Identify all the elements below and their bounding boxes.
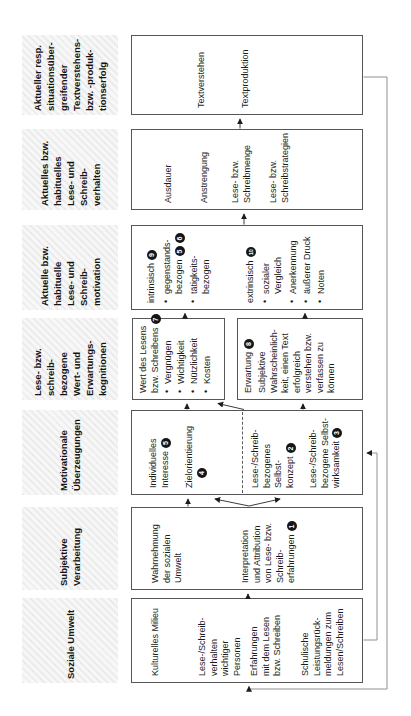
text-line: Zielorientierung — [184, 411, 196, 488]
header-line: habituelle — [51, 225, 64, 306]
list-item: Zielorientierung4 — [184, 411, 207, 488]
label-text: Umwelt — [173, 553, 183, 583]
header-line: bezogene — [57, 318, 70, 396]
text-line: Vergnügen — [163, 319, 175, 384]
label-text: Vergnügen — [163, 340, 173, 384]
list-item: •Nützlichkeit — [189, 319, 201, 393]
label-text: Zielorientierung — [184, 426, 194, 488]
text-line: können — [326, 319, 338, 393]
label-text: verhalten — [209, 639, 219, 676]
label-text: Interesse — [160, 451, 170, 488]
label-text: wirksamkeit — [331, 441, 341, 488]
text-line: und Attribution — [252, 508, 264, 583]
header-line: Aktueller resp. — [31, 35, 44, 111]
label-text: Lese-/Schreib- — [308, 429, 318, 488]
header-line: Erwartungs- — [83, 318, 96, 396]
list-item: •Wichtigkeit — [176, 319, 188, 393]
text-line: Wahrnehmung — [150, 508, 162, 583]
header-line: greifender — [57, 35, 70, 111]
label-text: Lese-/Schreib- — [250, 429, 260, 488]
text-line: Personen — [232, 599, 244, 676]
header-line: Aktuelles bzw. — [38, 129, 51, 206]
number-badge-2: 2 — [286, 443, 296, 453]
bullet-marker: • — [188, 300, 200, 303]
list-item: Erfahrungenmit dem Lesenbzw. Schreiben — [249, 599, 284, 676]
list-item: •äußerer Druck — [302, 226, 314, 303]
header-line: habituelles — [51, 129, 64, 206]
text-line: bezogen — [201, 226, 213, 294]
label-text: Leistungsrück- — [312, 617, 322, 676]
text-line: Lese- bzw. — [268, 130, 280, 203]
label-text: Personen — [232, 637, 242, 676]
label-text: Selbst- — [273, 460, 283, 488]
label-text: Erfahrungen — [249, 626, 259, 676]
list-item: •sozialerVergleich — [261, 226, 284, 303]
text-line: Interpretation — [240, 508, 252, 583]
text-line: verstehen bzw. — [303, 319, 315, 393]
text-line: Kosten — [202, 319, 214, 384]
header-line: Textverstehens- — [70, 35, 83, 111]
header-line: Lese- bzw. — [31, 318, 44, 396]
label-text: bzw. Schreiben — [272, 615, 282, 676]
text-line: gegenstands- — [162, 226, 174, 294]
list-item: Lese-/Schreib-bezogene Selbst-wirksamkei… — [308, 411, 343, 488]
text-line: bzw. Schreiben — [272, 599, 284, 676]
label-text: verstehen bzw. — [303, 333, 313, 393]
text-line: Kulturelles Milieu — [150, 599, 162, 676]
text-line: Anstrengung — [199, 130, 211, 203]
text-line: extrinsisch10 — [245, 226, 257, 303]
number-badge-5: 5 — [161, 438, 171, 448]
label-text: Subjektive — [257, 351, 267, 393]
number-badge-9: 9 — [147, 250, 157, 260]
number-badge-1: 1 — [287, 521, 297, 531]
number-badge-7: 7 — [151, 314, 161, 324]
text-line: Wichtigkeit — [176, 319, 188, 384]
list-item: Interpretationund Attributionvon Lese- b… — [240, 508, 298, 583]
arrow-subjektive-to-motivationale-upper — [215, 499, 249, 506]
bullet-marker: • — [161, 300, 173, 303]
list-item: Ausdauer — [163, 130, 175, 203]
bullet-marker: • — [188, 390, 200, 393]
list-item: extrinsisch10 — [245, 226, 257, 303]
text-line: Anerkennung — [288, 226, 300, 294]
column-header-motivationale-ueberzeugungen: MotivationaleÜberzeugungen — [22, 410, 118, 495]
text-line: bezogen56 — [174, 226, 186, 294]
text-line: konzept2 — [285, 411, 297, 488]
box-motivation-box: intrinsisch9•gegenstands-bezogen56•tätig… — [131, 225, 363, 310]
text-line: verfassen zu — [315, 319, 327, 393]
label-text: können — [326, 363, 336, 393]
label-text: Ausdauer — [163, 164, 173, 203]
text-line: wichtiger — [220, 599, 232, 676]
header-line: schreib- — [44, 318, 57, 396]
text-line: Selbst- — [273, 411, 285, 488]
label-text: extrinsisch — [245, 260, 255, 303]
list-item: •Noten — [316, 226, 328, 303]
text-line: Leistungsrück- — [312, 599, 324, 676]
label-text: intrinsisch — [146, 263, 156, 303]
text-line: Wert des Lesens — [138, 319, 150, 393]
label-text: wichtiger — [220, 640, 230, 676]
label-text: Erwartung — [243, 352, 253, 393]
text-line: Vergleich — [273, 226, 285, 294]
text-line: sozialer — [261, 226, 273, 294]
text-line: Lese-/Schreib- — [250, 411, 262, 488]
text-line: Noten — [316, 226, 328, 294]
diagram-stage: Soziale UmweltKulturelles MilieuLese-/Sc… — [0, 0, 411, 716]
column-header-textverstehenserfolg: Aktueller resp.situationsüber-greifender… — [22, 35, 118, 115]
list-item: Lese- bzw.Schreibmenge — [230, 130, 253, 203]
label-text: Wahrscheinlich- — [269, 329, 279, 393]
list-item: •Kosten — [202, 319, 214, 393]
header-line: Motivationale — [57, 410, 70, 491]
label-text: und Attribution — [252, 525, 262, 583]
bullet-marker: • — [260, 300, 272, 303]
label-text: Individuelles — [148, 438, 158, 488]
header-line: Soziale Umwelt — [64, 598, 77, 679]
label-text: Schreibmenge — [242, 145, 252, 203]
label-text: meldungen zum — [323, 612, 333, 676]
bullet-marker: • — [287, 300, 299, 303]
bullet-marker: • — [301, 300, 313, 303]
arrow-subjektive-to-motivationale-lower — [249, 499, 280, 506]
column-header-soziale-umwelt: Soziale Umwelt — [22, 598, 118, 683]
number-badge-8: 8 — [244, 339, 254, 349]
text-line: Interesse5 — [160, 411, 172, 488]
